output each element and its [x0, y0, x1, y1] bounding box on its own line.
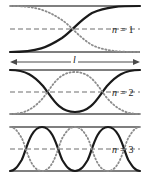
mode-equals-n1: =: [117, 24, 128, 35]
panel-n2: n = 2: [0, 66, 150, 118]
panel-n1: n = 1: [0, 0, 150, 58]
mode-value-n2: 2: [128, 87, 133, 98]
mode-label-n3: n = 3: [112, 144, 134, 155]
standing-wave-figure: n = 1 l n = 2: [0, 0, 150, 178]
mode-label-n2: n = 2: [112, 87, 134, 98]
length-dimension-label: l: [71, 55, 78, 65]
mode-value-n3: 3: [128, 144, 133, 155]
arrow-left-head: [10, 59, 17, 65]
mode-equals-n2: =: [117, 87, 128, 98]
mode-label-n1: n = 1: [112, 24, 134, 35]
panel-n3: n = 3: [0, 122, 150, 178]
arrow-right-head: [133, 59, 140, 65]
mode-value-n1: 1: [128, 24, 133, 35]
mode-equals-n3: =: [117, 144, 128, 155]
